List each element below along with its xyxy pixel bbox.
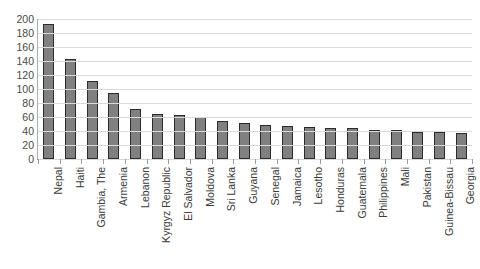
bar[interactable] (347, 128, 358, 159)
y-tick-label: 20 (0, 140, 34, 151)
x-tick (364, 159, 365, 164)
x-label-slot: Guyana (233, 165, 255, 269)
y-tick-label: 100 (0, 84, 34, 95)
x-label-slot: Armenia (103, 165, 125, 269)
y-tick-label: 80 (0, 98, 34, 109)
x-tick-label: Kyrgyz Republic (157, 167, 168, 243)
x-label-slot: Guinea-Bissau (429, 165, 451, 269)
x-tick-label: Sri Lanka (222, 167, 233, 211)
x-axis-ticks (38, 159, 472, 164)
y-tick-label: 120 (0, 70, 34, 81)
gridline-100 (38, 89, 472, 90)
x-label-slot: Pakistan (407, 165, 429, 269)
gridline-200 (38, 19, 472, 20)
bar-chart: 020406080100120140160180200 NepalHaitiGa… (0, 0, 480, 269)
x-tick-label: Lesotho (309, 167, 320, 204)
x-tick-label: Honduras (331, 167, 342, 213)
x-label-slot: Senegal (255, 165, 277, 269)
x-axis-tick-labels: NepalHaitiGambia, TheArmeniaLebanonKyrgy… (38, 165, 472, 269)
x-tick-label: Lebanon (136, 167, 147, 208)
x-label-slot: Kyrgyz Republic (147, 165, 169, 269)
x-tick (233, 159, 234, 164)
x-tick-label: Pakistan (418, 167, 429, 207)
x-label-slot: Mali (385, 165, 407, 269)
bar[interactable] (325, 128, 336, 160)
x-tick (320, 159, 321, 164)
bar[interactable] (239, 123, 250, 159)
x-label-slot: Lebanon (125, 165, 147, 269)
x-tick (125, 159, 126, 164)
x-tick (450, 159, 451, 164)
x-tick (147, 159, 148, 164)
x-tick (81, 159, 82, 164)
x-label-slot: Lesotho (298, 165, 320, 269)
x-tick (38, 159, 39, 164)
x-tick-label: Gambia, The (92, 167, 103, 228)
x-label-slot: El Salvador (168, 165, 190, 269)
gridline-40 (38, 131, 472, 132)
gridline-140 (38, 61, 472, 62)
gridline-180 (38, 33, 472, 34)
y-tick-label: 0 (0, 154, 34, 165)
bar[interactable] (65, 59, 76, 159)
gridline-60 (38, 117, 472, 118)
x-label-slot: Haiti (60, 165, 82, 269)
x-tick (385, 159, 386, 164)
x-tick-label: Moldova (201, 167, 212, 207)
x-label-slot: Nepal (38, 165, 60, 269)
x-tick-label: Guatemala (353, 167, 364, 218)
y-tick-label: 160 (0, 42, 34, 53)
x-label-slot: Guatemala (342, 165, 364, 269)
x-tick (472, 159, 473, 164)
x-label-slot: Philippines (364, 165, 386, 269)
bar[interactable] (152, 114, 163, 160)
x-tick (407, 159, 408, 164)
gridline-80 (38, 103, 472, 104)
x-tick-label: Nepal (49, 167, 60, 194)
y-axis-tick-labels: 020406080100120140160180200 (0, 19, 34, 159)
x-label-slot: Moldova (190, 165, 212, 269)
x-tick (168, 159, 169, 164)
x-tick (190, 159, 191, 164)
x-tick-label: El Salvador (179, 167, 190, 221)
x-tick-label: Georgia (461, 167, 472, 204)
y-tick-label: 180 (0, 28, 34, 39)
x-tick (277, 159, 278, 164)
x-tick-label: Armenia (114, 167, 125, 206)
x-tick (429, 159, 430, 164)
x-tick (342, 159, 343, 164)
x-label-slot: Sri Lanka (212, 165, 234, 269)
bar[interactable] (174, 115, 185, 159)
bar[interactable] (456, 133, 467, 159)
bar[interactable] (87, 81, 98, 159)
x-tick-label: Mali (396, 167, 407, 186)
plot-area (38, 19, 472, 159)
y-tick-label: 200 (0, 14, 34, 25)
x-label-slot: Jamaica (277, 165, 299, 269)
x-tick-label: Philippines (374, 167, 385, 218)
x-tick-label: Guinea-Bissau (440, 167, 451, 236)
x-tick (298, 159, 299, 164)
x-label-slot: Honduras (320, 165, 342, 269)
bar[interactable] (43, 24, 54, 159)
x-tick-label: Haiti (71, 167, 82, 188)
y-tick-label: 140 (0, 56, 34, 67)
x-tick (212, 159, 213, 164)
x-label-slot: Gambia, The (81, 165, 103, 269)
x-tick-label: Senegal (266, 167, 277, 206)
clipped-chart-title (14, 0, 274, 7)
gridline-20 (38, 145, 472, 146)
gridline-160 (38, 47, 472, 48)
gridline-120 (38, 75, 472, 76)
x-tick (103, 159, 104, 164)
x-tick-label: Guyana (244, 167, 255, 204)
x-tick-label: Jamaica (288, 167, 299, 206)
y-tick-label: 60 (0, 112, 34, 123)
y-tick-label: 40 (0, 126, 34, 137)
x-tick (255, 159, 256, 164)
bar[interactable] (217, 121, 228, 159)
x-label-slot: Georgia (450, 165, 472, 269)
bar[interactable] (195, 117, 206, 159)
x-tick (60, 159, 61, 164)
